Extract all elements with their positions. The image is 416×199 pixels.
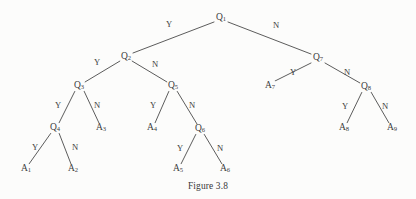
edge-label-e-q5-a4: Y	[150, 101, 156, 110]
node-subscript: 6	[202, 126, 205, 133]
edge-label-e-q1-q7: N	[273, 21, 279, 30]
tree-edge-layer	[0, 0, 416, 199]
node-subscript: 3	[103, 125, 106, 132]
node-subscript: 4	[154, 125, 157, 132]
edge-label-e-q7-a7: Y	[290, 68, 296, 77]
node-subscript: 5	[175, 83, 178, 90]
edge-label-e-q2-q3: Y	[94, 58, 100, 67]
edge-label-e-q8-a9: N	[382, 102, 388, 111]
edge-label-e-q5-q6: N	[189, 101, 195, 110]
node-subscript: 2	[75, 166, 78, 173]
edge-label-e-q3-q4: Y	[55, 101, 61, 110]
node-subscript: 8	[368, 84, 371, 91]
node-subscript: 3	[81, 83, 84, 90]
node-subscript: 7	[272, 83, 275, 90]
edge-label-e-q6-a5: Y	[177, 144, 183, 153]
figure-container: Q1Q2Q3Q4Q5Q6Q7Q8A1A2A3A4A5A6A7A8A9 YNYNY…	[0, 0, 416, 199]
edge-label-e-q6-a6: N	[217, 144, 223, 153]
node-subscript: 2	[128, 54, 131, 61]
tree-edge-q5-a4	[155, 91, 169, 123]
figure-caption: Figure 3.8	[0, 181, 416, 191]
tree-node-a9: A9	[386, 123, 397, 133]
node-subscript: 6	[227, 166, 230, 173]
tree-edge-q6-a5	[181, 134, 196, 164]
tree-node-a4: A4	[146, 123, 157, 133]
edge-label-e-q7-q8: N	[344, 68, 350, 77]
node-subscript: 1	[223, 15, 226, 22]
edge-label-e-q2-q5: N	[152, 60, 158, 69]
edge-label-e-q4-a2: N	[72, 143, 78, 152]
tree-edge-q3-q4	[59, 91, 75, 123]
tree-node-a5: A5	[172, 164, 183, 174]
tree-edge-q1-q7	[228, 22, 311, 54]
edge-label-e-q8-a8: Y	[342, 102, 348, 111]
tree-node-q8: Q8	[360, 82, 371, 92]
tree-node-q7: Q7	[312, 53, 323, 63]
node-subscript: 4	[57, 125, 60, 132]
tree-edge-q2-q5	[132, 61, 167, 82]
tree-node-a1: A1	[20, 164, 31, 174]
node-subscript: 9	[394, 125, 397, 132]
tree-node-a2: A2	[67, 164, 78, 174]
tree-node-a6: A6	[219, 164, 230, 174]
node-subscript: 5	[180, 166, 183, 173]
tree-edge-q2-q3	[85, 61, 120, 82]
node-subscript: 8	[346, 125, 349, 132]
tree-node-q3: Q3	[73, 81, 84, 91]
tree-node-q5: Q5	[167, 81, 178, 91]
node-subscript: 1	[28, 166, 31, 173]
tree-edge-q1-q2	[133, 22, 214, 53]
tree-node-a3: A3	[95, 123, 106, 133]
tree-node-q2: Q2	[120, 52, 131, 62]
tree-node-q4: Q4	[49, 123, 60, 133]
edge-label-e-q4-a1: Y	[32, 143, 38, 152]
tree-node-q1: Q1	[215, 13, 226, 23]
tree-edge-q4-a2	[59, 133, 71, 164]
tree-node-a8: A8	[338, 123, 349, 133]
tree-edge-q8-a8	[347, 92, 362, 123]
tree-node-a7: A7	[264, 81, 275, 91]
edge-label-e-q1-q2: Y	[166, 20, 172, 29]
node-subscript: 7	[320, 55, 323, 62]
tree-node-q6: Q6	[194, 124, 205, 134]
tree-edge-q7-q8	[325, 63, 360, 83]
edge-label-e-q3-a3: N	[94, 101, 100, 110]
